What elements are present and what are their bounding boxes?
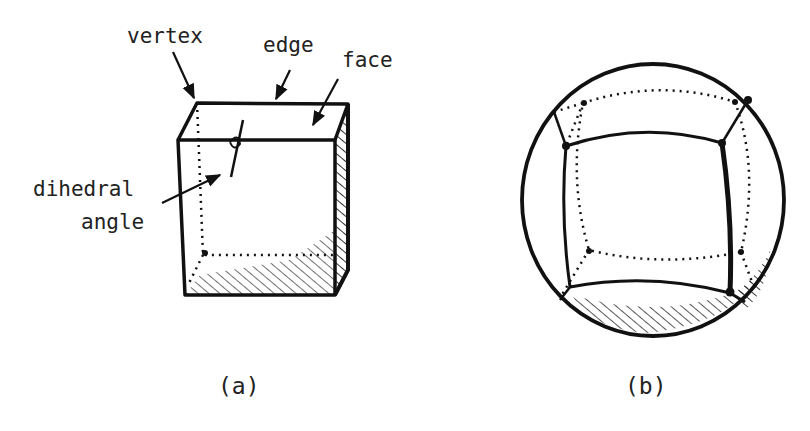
label-angle: angle (81, 210, 144, 234)
diagram-canvas: vertex edge face dihedral angle (a) (0, 0, 810, 431)
cube-hidden-edges (197, 103, 335, 255)
face-arrow (313, 79, 338, 125)
caption-b: (b) (625, 373, 667, 399)
vertex-arrow (173, 52, 194, 98)
cube-hidden-vertex (202, 250, 208, 256)
cube-figure (178, 103, 348, 295)
edge-arrow (276, 70, 290, 99)
label-edge: edge (263, 33, 314, 57)
cube-bottom-shading (185, 230, 335, 295)
sphere-front-face (564, 132, 731, 293)
label-face: face (342, 48, 393, 72)
spherical-cube-figure (522, 64, 784, 336)
dihedral-angle-line (231, 120, 243, 177)
sphere-hidden-face (577, 90, 749, 259)
label-vertex: vertex (127, 24, 203, 48)
caption-a: (a) (218, 373, 260, 399)
label-dihedral: dihedral (33, 177, 134, 201)
dihedral-arrow (162, 175, 220, 203)
